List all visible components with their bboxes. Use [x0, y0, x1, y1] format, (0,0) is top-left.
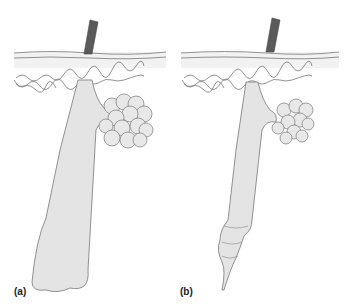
follicle	[218, 82, 276, 290]
hair-shaft	[266, 18, 280, 52]
epidermis	[181, 52, 339, 68]
hair-shaft	[84, 20, 98, 54]
panel-label-a: (a)	[14, 286, 26, 297]
hair-follicle-a-illustration	[0, 0, 175, 306]
panel-label-b: (b)	[180, 286, 193, 297]
sebaceous-gland	[99, 94, 153, 148]
hair-follicle-b-illustration	[176, 0, 351, 306]
panel-b: (b)	[176, 0, 351, 306]
panel-a: (a)	[0, 0, 175, 306]
sebaceous-gland	[272, 99, 314, 144]
follicle	[32, 80, 110, 292]
epidermis	[14, 52, 166, 68]
